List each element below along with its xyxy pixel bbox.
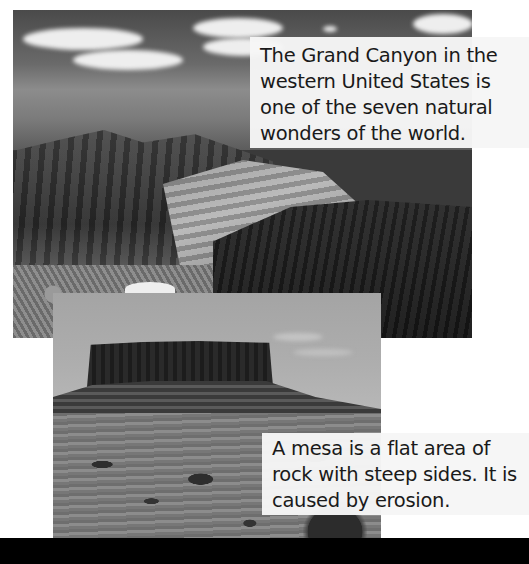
cloud <box>413 14 472 34</box>
mesa-butte <box>87 341 273 387</box>
cloud <box>273 333 323 341</box>
mesa-caption: A mesa is a flat area of rock with steep… <box>262 433 529 515</box>
mesa-photo <box>53 293 381 560</box>
cloud <box>23 28 143 50</box>
cloud <box>293 349 353 356</box>
cloud <box>73 50 183 70</box>
cloud <box>323 26 337 32</box>
page-bottom-band <box>0 538 529 564</box>
cloud <box>193 18 283 38</box>
grand-canyon-caption: The Grand Canyon in the western United S… <box>250 37 529 148</box>
